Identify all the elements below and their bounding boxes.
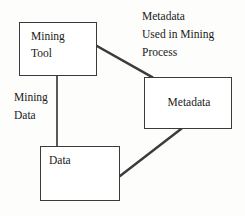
edge-label-mining-data: Mining Data xyxy=(14,89,64,125)
node-metadata[interactable]: Metadata xyxy=(144,77,232,129)
node-metadata-label: Metadata xyxy=(145,94,233,111)
diagram-canvas: Mining Tool Metadata Data Metadata Used … xyxy=(0,0,245,216)
node-mining-tool[interactable]: Mining Tool xyxy=(19,22,97,76)
node-mining-tool-label: Mining Tool xyxy=(31,28,65,63)
node-data[interactable]: Data xyxy=(40,146,120,201)
edge-data-to-metadata xyxy=(120,129,181,176)
edge-label-metadata-used-in-mining-process: Metadata Used in Mining Process xyxy=(142,8,245,61)
node-data-label: Data xyxy=(49,152,71,169)
